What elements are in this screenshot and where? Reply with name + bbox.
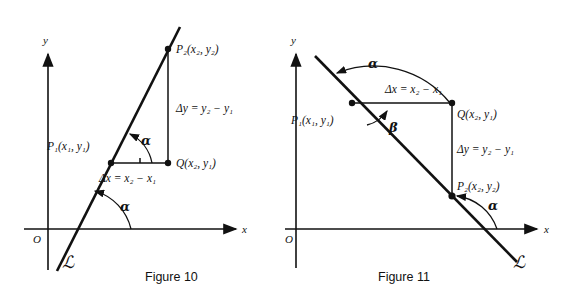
figure-page: x y O P₂(x₂, y₂) P₁(x₁, y₁) Q(x₂, y₁) Δy…	[0, 0, 570, 297]
figure-11-canvas: x y O P₁(x₁, y₁) Q(x₂, y₁) P₂(x₂, y₂) Δx…	[285, 0, 570, 297]
point-p2-marker	[448, 192, 455, 199]
point-p2-marker	[165, 46, 171, 52]
angle-beta-label: β	[388, 120, 398, 135]
line-L-label: ℒ	[62, 252, 75, 272]
angle-alpha-label-at-p1: α	[141, 133, 151, 148]
line-L-label: ℒ	[513, 252, 526, 272]
y-axis-label: y	[42, 34, 48, 46]
figure-10-panel: x y O P₂(x₂, y₂) P₁(x₁, y₁) Q(x₂, y₁) Δy…	[0, 0, 285, 297]
point-p1-label: P₁(x₁, y₁)	[46, 140, 90, 153]
angle-alpha-label-at-p1: α	[368, 56, 378, 71]
origin-label: O	[285, 233, 293, 245]
figure-10-canvas: x y O P₂(x₂, y₂) P₁(x₁, y₁) Q(x₂, y₁) Δy…	[0, 0, 285, 297]
origin-label: O	[33, 233, 41, 245]
point-q-marker	[449, 100, 455, 106]
point-p2-label: P₂(x₂, y₂)	[456, 180, 500, 193]
figure-11-panel: x y O P₁(x₁, y₁) Q(x₂, y₁) P₂(x₂, y₂) Δx…	[285, 0, 570, 297]
delta-y-label: Δy = y₂ − y₁	[175, 102, 233, 115]
x-axis-label: x	[241, 223, 247, 235]
delta-x-label: Δx = x₂ − x₁	[98, 172, 156, 184]
angle-alpha-label-at-axis: α	[120, 199, 130, 214]
point-p1-marker	[349, 100, 355, 106]
angle-alpha-label-at-axis: α	[488, 198, 498, 213]
x-axis-label: x	[543, 223, 549, 235]
figure-10-caption: Figure 10	[145, 270, 198, 284]
point-p1-label: P₁(x₁, y₁)	[290, 114, 334, 127]
point-q-label: Q(x₂, y₁)	[176, 157, 216, 170]
y-axis-label: y	[290, 34, 296, 46]
point-q-label: Q(x₂, y₁)	[457, 108, 497, 121]
delta-x-label: Δx = x₂ − x₁	[384, 83, 442, 95]
point-p2-label: P₂(x₂, y₂)	[175, 43, 219, 56]
point-q-marker	[165, 160, 171, 166]
delta-y-label: Δy = y₂ − y₁	[456, 143, 514, 156]
point-p1-marker	[108, 160, 114, 166]
figure-11-caption: Figure 11	[378, 270, 430, 284]
